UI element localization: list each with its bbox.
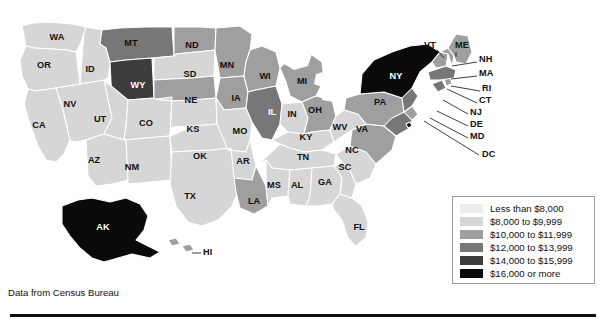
state-label-or: OR	[37, 60, 51, 70]
state-label-ct: CT	[479, 95, 492, 105]
legend-label: Less than $8,000	[490, 204, 564, 214]
state-label-co: CO	[139, 118, 153, 128]
map-legend: Less than $8,000 $8,000 to $9,999 $10,00…	[452, 196, 595, 284]
state-label-nc: NC	[345, 145, 359, 155]
state-label-ca: CA	[32, 120, 46, 130]
state-label-nm: NM	[125, 162, 140, 172]
state-label-wi: WI	[259, 71, 270, 81]
great-lake-water-4	[322, 88, 344, 102]
state-label-sc: SC	[339, 162, 352, 172]
state-label-mt: MT	[124, 38, 138, 48]
leader-line-nj	[443, 100, 468, 114]
legend-row: $8,000 to $9,999	[460, 215, 588, 228]
legend-row: $16,000 or more	[460, 267, 588, 280]
legend-swatch	[460, 243, 483, 252]
legend-swatch	[460, 217, 483, 226]
legend-label: $12,000 to $13,999	[490, 243, 573, 253]
footer-rule	[10, 314, 596, 317]
state-label-dc: DC	[482, 149, 496, 159]
state-label-in: IN	[287, 109, 297, 119]
choropleth-map-figure: WAORCANVIDMTWYUTAZCONMNDSDNEKSOKTXMNIAMO…	[0, 0, 606, 326]
legend-swatch	[460, 269, 483, 278]
state-label-me: ME	[455, 40, 469, 50]
state-label-nj: NJ	[470, 107, 482, 117]
state-label-mi: MI	[297, 76, 307, 86]
state-label-fl: FL	[353, 222, 365, 232]
state-label-az: AZ	[88, 155, 101, 165]
state-label-nd: ND	[185, 40, 199, 50]
state-label-al: AL	[291, 180, 304, 190]
state-label-oh: OH	[308, 105, 322, 115]
state-label-ms: MS	[267, 180, 281, 190]
state-label-tn: TN	[297, 152, 310, 162]
state-label-ma: MA	[479, 68, 494, 78]
state-label-wy: WY	[131, 80, 146, 90]
states-layer[interactable]	[20, 22, 472, 262]
state-label-wv: WV	[333, 122, 349, 132]
state-label-ia: IA	[231, 93, 241, 103]
state-label-pa: PA	[374, 97, 386, 107]
state-wi[interactable]	[244, 46, 280, 92]
state-label-ks: KS	[187, 124, 200, 134]
state-hi[interactable]	[168, 238, 194, 252]
legend-swatch	[460, 256, 483, 265]
state-label-hi: HI	[203, 247, 212, 257]
legend-row: Less than $8,000	[460, 202, 588, 215]
state-nm[interactable]	[126, 136, 172, 184]
legend-label: $8,000 to $9,999	[490, 217, 562, 227]
state-label-de: DE	[470, 119, 483, 129]
state-label-ri: RI	[482, 83, 491, 93]
state-label-ne: NE	[185, 95, 198, 105]
state-label-sd: SD	[184, 69, 197, 79]
leader-line-ct	[447, 89, 477, 103]
state-ct[interactable]	[432, 80, 446, 92]
legend-label: $16,000 or more	[490, 269, 560, 279]
legend-row: $14,000 to $15,999	[460, 254, 588, 267]
state-label-ny: NY	[390, 71, 403, 81]
state-label-il: IL	[268, 107, 277, 117]
legend-row: $10,000 to $11,999	[460, 228, 588, 241]
state-label-ar: AR	[236, 156, 250, 166]
state-label-mn: MN	[220, 60, 235, 70]
state-ma[interactable]	[428, 66, 456, 80]
legend-label: $14,000 to $15,999	[490, 256, 573, 266]
state-label-wa: WA	[50, 32, 65, 42]
state-label-va: VA	[356, 124, 368, 134]
data-source-credit: Data from Census Bureau	[8, 287, 119, 298]
state-label-ok: OK	[193, 151, 207, 161]
state-label-vt: VT	[424, 40, 436, 50]
state-label-ak: AK	[96, 222, 110, 232]
state-label-nv: NV	[64, 99, 78, 109]
state-label-ky: KY	[300, 132, 313, 142]
state-label-nh: NH	[479, 54, 493, 64]
state-label-tx: TX	[184, 191, 197, 201]
state-fl[interactable]	[332, 194, 368, 246]
state-label-mo: MO	[233, 126, 248, 136]
legend-row: $12,000 to $13,999	[460, 241, 588, 254]
leader-line-ri	[451, 86, 480, 91]
legend-label: $10,000 to $11,999	[490, 230, 572, 240]
state-label-id: ID	[85, 64, 95, 74]
legend-swatch	[460, 230, 483, 239]
state-label-ut: UT	[94, 114, 107, 124]
state-ak[interactable]	[62, 198, 160, 262]
state-label-ga: GA	[318, 177, 332, 187]
state-label-la: LA	[248, 196, 261, 206]
legend-swatch	[460, 204, 483, 213]
state-label-md: MD	[470, 131, 485, 141]
